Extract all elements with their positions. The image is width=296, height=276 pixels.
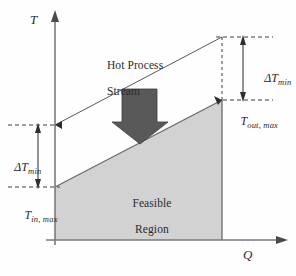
delta-t-min-left-arrowhead-up (35, 123, 41, 133)
inlet-point-marker (55, 121, 62, 129)
t-out-max-subscript: out, max (247, 120, 278, 130)
t-out-max-label: Tout, max (228, 102, 278, 142)
feasible-region-label-line2: Region (135, 223, 169, 235)
t-in-max-subscript: in, max (31, 214, 57, 224)
hot-process-stream-label: Hot Process Stream (95, 46, 163, 110)
delta-t-min-left-symbol: ΔT (14, 160, 28, 174)
delta-t-min-right-label: ΔTmin (252, 59, 291, 99)
hot-process-stream-label-line1: Hot Process (107, 59, 163, 71)
delta-t-min-left-label: ΔTmin (2, 148, 41, 188)
feasible-region-figure: T Q Hot Process Stream Feasible Region Δ… (0, 0, 296, 276)
delta-t-min-right-symbol: ΔT (264, 71, 278, 85)
heat-duty-axis-label: Q (243, 248, 253, 263)
hot-process-stream-label-line2: Stream (107, 85, 140, 97)
delta-t-min-left-subscript: min (28, 166, 41, 176)
feasible-region-label-line1: Feasible (132, 197, 171, 209)
temperature-axis-arrowhead (51, 10, 59, 22)
t-in-max-label: Tin, max (12, 196, 58, 236)
heat-duty-axis-arrowhead (276, 236, 288, 244)
delta-t-min-right-subscript: min (278, 77, 291, 87)
feasible-region-label: Feasible Region (108, 184, 184, 248)
temperature-axis-label: T (30, 13, 37, 28)
